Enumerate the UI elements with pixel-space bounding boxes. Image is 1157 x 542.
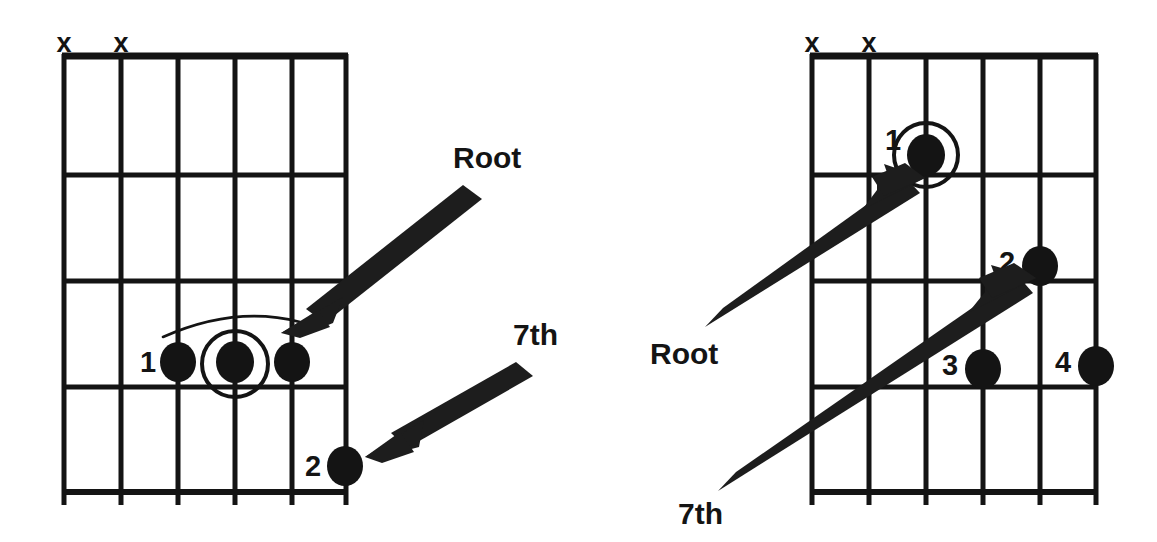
chord-diagrams-canvas: x x 1 2 bbox=[0, 0, 1157, 542]
left-root-arrow bbox=[281, 185, 482, 338]
right-mute-x-string-1: x bbox=[804, 28, 819, 58]
right-finger-label-3: 3 bbox=[942, 349, 958, 381]
right-root-arrow bbox=[705, 163, 925, 327]
right-finger-label-1: 1 bbox=[885, 124, 901, 156]
right-dot-string-4 bbox=[965, 349, 1001, 389]
right-mute-x-string-2: x bbox=[861, 28, 876, 58]
left-chord-diagram: x x 1 2 bbox=[56, 28, 558, 505]
left-finger-label-1: 1 bbox=[140, 346, 156, 378]
left-seventh-arrow bbox=[365, 362, 533, 463]
left-mute-x-string-2: x bbox=[113, 28, 128, 58]
left-dot-string-3 bbox=[160, 342, 196, 382]
right-finger-label-4: 4 bbox=[1055, 346, 1071, 378]
left-finger-label-2: 2 bbox=[305, 450, 321, 482]
left-mute-x-string-1: x bbox=[56, 28, 71, 58]
right-seventh-label: 7th bbox=[678, 497, 723, 530]
right-chord-diagram: x x 1 2 3 4 bbox=[650, 28, 1114, 530]
left-seventh-label: 7th bbox=[513, 318, 558, 351]
left-dot-string-5 bbox=[274, 342, 310, 382]
left-slur-arc bbox=[163, 316, 300, 337]
left-root-label: Root bbox=[453, 141, 521, 174]
left-dot-string-6-seventh bbox=[327, 446, 363, 486]
left-dot-string-4-root bbox=[216, 341, 254, 383]
right-root-label: Root bbox=[650, 337, 718, 370]
diagram-stage: x x 1 2 bbox=[0, 0, 1157, 542]
right-dot-string-6 bbox=[1078, 346, 1114, 386]
